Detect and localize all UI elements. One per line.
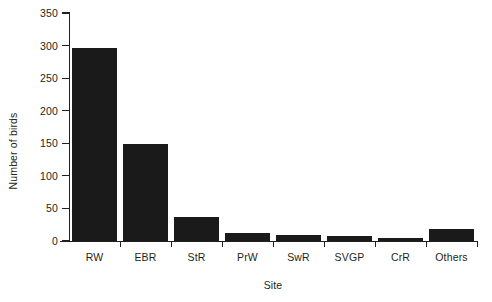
x-tick-3 — [222, 241, 223, 247]
y-tick-label-50: 50 — [18, 203, 58, 214]
bar-others — [429, 229, 474, 241]
x-tick-2 — [171, 241, 172, 247]
y-tick-label-350: 350 — [18, 8, 58, 19]
bar-str — [174, 217, 219, 241]
x-tick-8 — [477, 241, 478, 247]
bar-ebr — [123, 144, 168, 241]
bar-chart-figure: Number of birds 050100150200250300350 RW… — [0, 0, 492, 302]
bar-crr — [378, 238, 423, 241]
x-axis-title: Site — [69, 279, 477, 291]
x-label-others: Others — [426, 252, 477, 263]
x-label-prw: PrW — [222, 252, 273, 263]
y-tick-100 — [62, 175, 69, 176]
bar-swr — [276, 235, 321, 241]
x-label-ebr: EBR — [120, 252, 171, 263]
x-label-rw: RW — [69, 252, 120, 263]
x-label-svgp: SVGP — [324, 252, 375, 263]
plot-area — [69, 13, 477, 241]
bar-prw — [225, 233, 270, 241]
y-tick-0 — [62, 240, 69, 241]
y-tick-label-0: 0 — [18, 236, 58, 247]
x-tick-1 — [120, 241, 121, 247]
x-label-str: StR — [171, 252, 222, 263]
x-tick-4 — [273, 241, 274, 247]
y-tick-150 — [62, 143, 69, 144]
y-tick-label-200: 200 — [18, 106, 58, 117]
y-tick-label-150: 150 — [18, 138, 58, 149]
bar-svgp — [327, 236, 372, 241]
y-tick-250 — [62, 78, 69, 79]
y-tick-350 — [62, 12, 69, 13]
x-tick-7 — [426, 241, 427, 247]
y-tick-50 — [62, 208, 69, 209]
y-tick-label-100: 100 — [18, 171, 58, 182]
x-tick-5 — [324, 241, 325, 247]
x-tick-6 — [375, 241, 376, 247]
bar-rw — [72, 48, 117, 241]
x-label-crr: CrR — [375, 252, 426, 263]
y-tick-200 — [62, 110, 69, 111]
y-tick-label-250: 250 — [18, 73, 58, 84]
y-tick-label-300: 300 — [18, 41, 58, 52]
x-label-swr: SwR — [273, 252, 324, 263]
y-tick-300 — [62, 45, 69, 46]
